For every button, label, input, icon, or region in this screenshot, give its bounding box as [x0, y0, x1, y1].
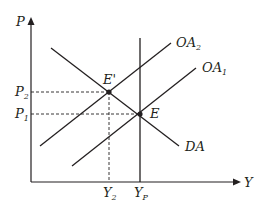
tick-subscript: 1 [24, 114, 29, 123]
curve-label-da: DA [184, 139, 205, 154]
curve-name: OA [202, 60, 222, 75]
tick-name: P [14, 84, 24, 99]
curve-label-oa2: OA2 [176, 35, 201, 52]
tick-label-p2: P2 [14, 84, 29, 101]
curve-name: OA [176, 35, 196, 50]
equilibrium-point-e [137, 111, 142, 116]
price-axis-arrow-icon [28, 17, 35, 25]
tick-subscript: P [142, 193, 149, 202]
ad-as-diagram: P Y E' E OA2 OA1 DA P2 P1 Y2 YP [0, 0, 267, 212]
curve-subscript: 2 [195, 43, 201, 52]
tick-label-p1: P1 [14, 106, 29, 123]
price-axis-label: P [15, 14, 25, 29]
tick-subscript: 2 [23, 92, 29, 101]
supply-curve-oa1 [72, 68, 196, 166]
output-axis-arrow-icon [233, 179, 241, 186]
curve-subscript: 1 [222, 68, 227, 77]
tick-name: P [14, 106, 24, 121]
output-axis-label: Y [244, 175, 254, 190]
tick-label-y2: Y2 [103, 185, 117, 202]
point-label-e: E [149, 106, 160, 121]
supply-curve-oa2 [40, 43, 171, 146]
tick-subscript: 2 [111, 193, 117, 202]
tick-label-yp: YP [134, 185, 149, 202]
curve-label-oa1: OA1 [202, 60, 227, 77]
equilibrium-point-e-prime [106, 89, 111, 94]
point-label-e-prime: E' [102, 72, 116, 87]
